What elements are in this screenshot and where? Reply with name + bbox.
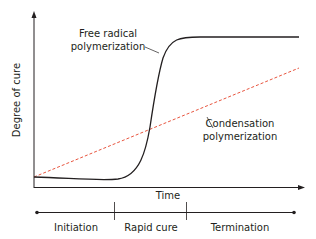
free-radical-label-line1: Free radical [79,28,137,39]
phase-rapid-cure: Rapid cure [124,222,177,233]
cure-diagram: Free radical polymerization Condensation… [0,0,316,239]
free-radical-curve [34,37,299,180]
x-axis-arrow-icon [298,185,305,190]
condensation-label-line1: Condensation [206,118,275,129]
phase-initiation: Initiation [54,222,98,233]
free-radical-leader [145,47,159,53]
y-axis-label: Degree of cure [11,63,22,137]
condensation-label-line2: polymerization [203,131,277,142]
phase-termination: Termination [210,222,270,233]
free-radical-label-line2: polymerization [71,41,145,52]
timeline-end-dot-icon [292,211,296,215]
timeline-start-dot-icon [35,211,39,215]
x-axis-label: Time [155,190,180,201]
y-axis-arrow-icon [32,11,37,18]
